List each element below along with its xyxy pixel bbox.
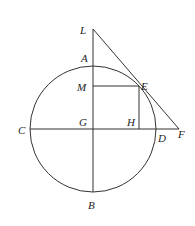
label-L: L [79,24,86,36]
label-G: G [79,116,87,128]
geometry-diagram: L A M E C G H D F B [0,0,195,226]
label-C: C [18,124,26,136]
label-D: D [157,132,166,144]
tangent-LF [93,29,179,129]
label-A: A [80,52,88,64]
label-M: M [76,81,87,93]
label-F: F [177,128,185,140]
label-B: B [88,199,95,211]
label-H: H [126,116,136,128]
label-E: E [140,80,148,92]
